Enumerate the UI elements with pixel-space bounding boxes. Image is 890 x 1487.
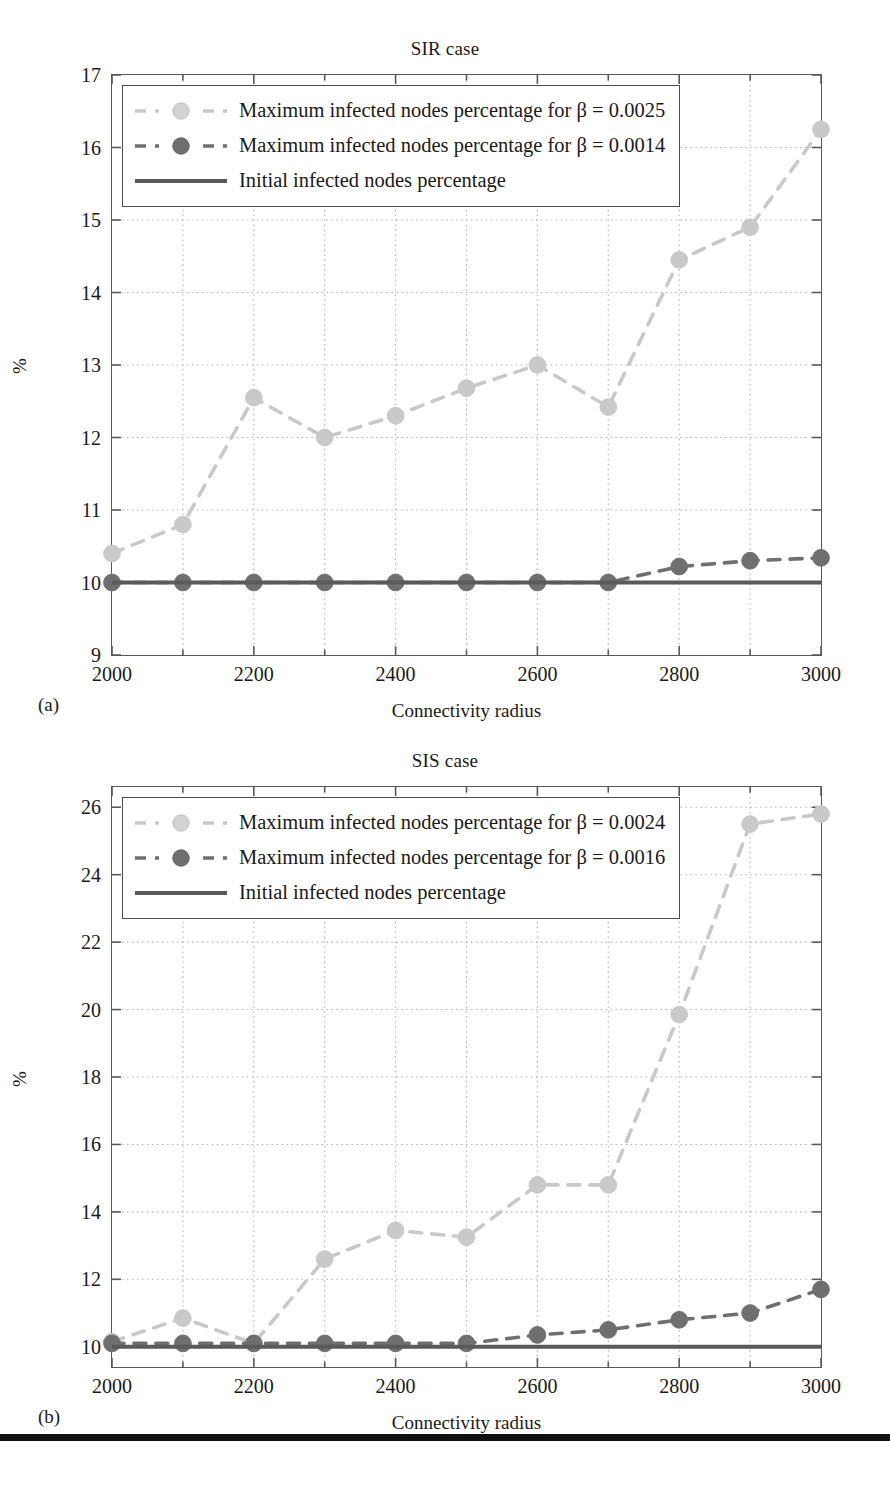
data-point-marker: [529, 357, 546, 374]
figure-page: SIR case % 91011121314151617200022002400…: [0, 0, 890, 1487]
data-point-marker: [813, 806, 830, 823]
legend-swatch-dark-solid-line-icon: [133, 883, 229, 903]
data-point-marker: [245, 1335, 262, 1352]
page-bottom-rule: [0, 1434, 890, 1441]
legend-swatch-dark-dashed-circle-icon: [133, 848, 229, 868]
data-point-marker: [529, 1327, 546, 1344]
x-axis-tick-label: 2200: [234, 664, 274, 684]
panel-b-title: SIS case: [0, 750, 890, 772]
data-point-marker: [813, 121, 830, 138]
data-point-marker: [813, 549, 830, 566]
data-point-marker: [600, 399, 617, 416]
legend-item: Maximum infected nodes percentage for β …: [133, 93, 665, 128]
x-axis-tick-label: 3000: [801, 664, 841, 684]
y-axis-tick-label: 17: [81, 65, 101, 85]
y-axis-tick-label: 13: [81, 355, 101, 375]
legend-swatch-light-dashed-circle-icon: [133, 813, 229, 833]
x-axis-tick-label: 2600: [517, 664, 557, 684]
legend-sis: Maximum infected nodes percentage for β …: [122, 797, 680, 919]
y-axis-tick-label: 15: [81, 210, 101, 230]
legend-label: Maximum infected nodes percentage for β …: [239, 100, 665, 121]
x-axis-tick-label: 2200: [234, 1376, 274, 1396]
legend-item: Initial infected nodes percentage: [133, 875, 665, 910]
subfigure-label-a: (a): [38, 694, 59, 716]
legend-swatch-dark-solid-line-icon: [133, 171, 229, 191]
data-point-marker: [104, 1335, 121, 1352]
x-axis-tick-label: 2800: [659, 1376, 699, 1396]
data-point-marker: [742, 219, 759, 236]
y-axis-tick-label: 26: [81, 797, 101, 817]
y-axis-tick-label: 11: [82, 500, 101, 520]
x-axis-tick-label: 2400: [376, 664, 416, 684]
data-point-marker: [742, 816, 759, 833]
legend-label: Maximum infected nodes percentage for β …: [239, 847, 665, 868]
y-axis-tick-label: 20: [81, 1000, 101, 1020]
y-axis-tick-label: 24: [81, 865, 101, 885]
panel-b-x-axis-label: Connectivity radius: [111, 1412, 822, 1434]
data-point-marker: [245, 389, 262, 406]
legend-swatch-light-dashed-circle-icon: [133, 101, 229, 121]
x-axis-tick-label: 3000: [801, 1376, 841, 1396]
y-axis-tick-label: 9: [91, 645, 101, 665]
panel-a-y-axis-label: %: [9, 358, 31, 374]
data-point-marker: [458, 380, 475, 397]
data-point-marker: [316, 1251, 333, 1268]
data-point-marker: [387, 407, 404, 424]
y-axis-tick-label: 12: [81, 1269, 101, 1289]
data-point-marker: [671, 558, 688, 575]
panel-a-title: SIR case: [0, 38, 890, 60]
subfigure-label-b: (b): [38, 1406, 60, 1428]
legend-label: Initial infected nodes percentage: [239, 882, 506, 903]
y-axis-tick-label: 10: [81, 1337, 101, 1357]
data-point-marker: [529, 1177, 546, 1194]
x-axis-tick-label: 2600: [517, 1376, 557, 1396]
legend-sir: Maximum infected nodes percentage for β …: [122, 85, 680, 207]
data-point-marker: [458, 1335, 475, 1352]
data-point-marker: [671, 252, 688, 269]
data-point-marker: [600, 1322, 617, 1339]
data-point-marker: [813, 1281, 830, 1298]
data-point-marker: [175, 1335, 192, 1352]
data-point-marker: [458, 1229, 475, 1246]
x-axis-tick-label: 2000: [92, 1376, 132, 1396]
y-axis-tick-label: 16: [81, 1134, 101, 1154]
x-axis-tick-label: 2400: [376, 1376, 416, 1396]
legend-item: Maximum infected nodes percentage for β …: [133, 128, 665, 163]
data-point-marker: [316, 429, 333, 446]
legend-label: Maximum infected nodes percentage for β …: [239, 135, 665, 156]
legend-item: Maximum infected nodes percentage for β …: [133, 840, 665, 875]
y-axis-tick-label: 14: [81, 1202, 101, 1222]
y-axis-tick-label: 18: [81, 1067, 101, 1087]
y-axis-tick-label: 22: [81, 932, 101, 952]
legend-label: Initial infected nodes percentage: [239, 170, 506, 191]
data-point-marker: [742, 1305, 759, 1322]
x-axis-tick-label: 2000: [92, 664, 132, 684]
legend-swatch-dark-dashed-circle-icon: [133, 136, 229, 156]
data-point-marker: [104, 545, 121, 562]
data-point-marker: [671, 1311, 688, 1328]
y-axis-tick-label: 12: [81, 428, 101, 448]
y-axis-tick-label: 14: [81, 283, 101, 303]
legend-item: Initial infected nodes percentage: [133, 163, 665, 198]
data-point-marker: [316, 1335, 333, 1352]
data-point-marker: [175, 1310, 192, 1327]
plot-area-sir: 9101112131415161720002200240026002800300…: [111, 74, 822, 656]
data-point-marker: [742, 552, 759, 569]
data-point-marker: [600, 1177, 617, 1194]
data-point-marker: [387, 1222, 404, 1239]
y-axis-tick-label: 16: [81, 138, 101, 158]
panel-sis: SIS case % 10121416182022242620002200240…: [0, 718, 890, 1418]
data-point-marker: [175, 516, 192, 533]
panel-b-y-axis-label: %: [9, 1071, 31, 1087]
legend-label: Maximum infected nodes percentage for β …: [239, 812, 665, 833]
legend-item: Maximum infected nodes percentage for β …: [133, 805, 665, 840]
y-axis-tick-label: 10: [81, 573, 101, 593]
plot-area-sis: 1012141618202224262000220024002600280030…: [111, 786, 822, 1368]
x-axis-tick-label: 2800: [659, 664, 699, 684]
data-point-marker: [671, 1006, 688, 1023]
data-point-marker: [387, 1335, 404, 1352]
panel-sir: SIR case % 91011121314151617200022002400…: [0, 0, 890, 740]
